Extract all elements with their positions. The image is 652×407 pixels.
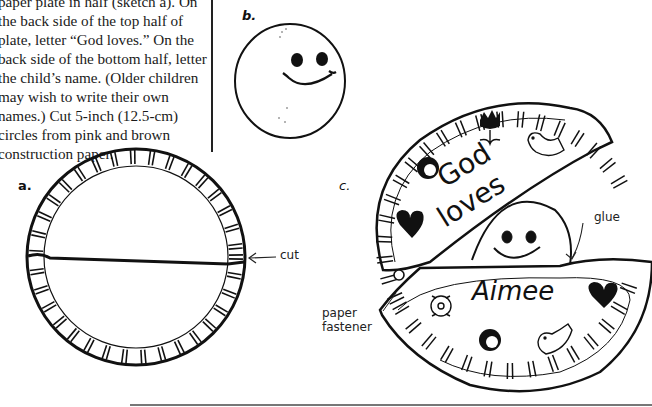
cut-annotation: cut — [280, 248, 299, 262]
paper-fastener-annotation: paper fastener — [322, 306, 372, 334]
plate-ridge — [376, 236, 392, 237]
jesus-face-icon-2 — [479, 329, 501, 351]
sketch-b-smiley-face-icon — [235, 24, 345, 138]
plate-ridge — [205, 319, 215, 328]
glue-annotation: glue — [594, 210, 620, 224]
paper-fastener-annotation-line2: fastener — [322, 320, 372, 334]
flower-icon — [431, 296, 451, 316]
sketch-a-label: a. — [18, 178, 32, 193]
illustration: God loves Aimee — [0, 0, 652, 407]
plate-ridge — [203, 322, 213, 332]
plate-ridge — [31, 235, 45, 238]
plate-ridge — [229, 248, 243, 249]
plate-ridge — [228, 244, 242, 246]
plate-ridge — [30, 272, 44, 274]
plate-ridge — [29, 250, 43, 251]
plate-ridge — [59, 183, 69, 193]
plate-ridge — [56, 319, 66, 328]
glue-arrow-icon — [566, 223, 583, 259]
bottom-rule — [130, 404, 652, 406]
sketch-c-label: c. — [339, 178, 350, 193]
plate-ridge — [158, 347, 161, 361]
plate-ridge — [130, 150, 131, 164]
plate-ridge — [102, 345, 106, 358]
plate-ridge — [62, 179, 72, 189]
plate-ridge — [149, 151, 151, 165]
plate-ridge — [226, 228, 239, 232]
plate-ridge — [225, 224, 238, 228]
plate-ridge — [36, 289, 49, 294]
plate-ridge — [196, 175, 205, 186]
plate-ridge — [152, 152, 154, 166]
plate-ridge — [145, 350, 146, 364]
paper-fastener-icon — [394, 270, 404, 280]
plate-ridge — [162, 346, 166, 359]
plate-ridge — [165, 156, 169, 169]
plate-ridge — [228, 272, 242, 274]
plate-ridge — [502, 111, 503, 127]
plate-ridge — [53, 316, 64, 325]
plate-ridge — [122, 349, 124, 363]
plate-ridge — [106, 346, 110, 359]
sketch-c-plate — [376, 103, 652, 391]
plate-ridge — [382, 279, 397, 284]
plate-ridge — [111, 153, 114, 167]
plate-ridge — [34, 286, 47, 290]
plate-ridge — [126, 350, 127, 364]
sketch-b-label: b. — [242, 8, 256, 23]
plate-ridge — [227, 276, 241, 279]
plate-ridge — [169, 157, 174, 170]
cut-arrow-icon — [249, 253, 276, 263]
plate-ridge — [32, 231, 46, 234]
child-name-text: Aimee — [470, 276, 554, 306]
paper-fastener-annotation-line1: paper — [322, 306, 372, 320]
plate-ridge — [517, 111, 518, 127]
sketch-a-plate — [27, 149, 245, 365]
plate-ridge — [141, 350, 142, 364]
plate-ridge — [115, 152, 118, 166]
plate-ridge — [199, 178, 208, 188]
plate-ridge — [30, 269, 44, 271]
